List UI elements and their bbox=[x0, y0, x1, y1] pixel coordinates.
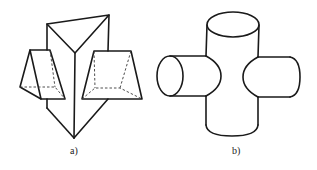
figure-a-label: a) bbox=[70, 146, 78, 156]
figure-a-prism bbox=[47, 15, 109, 138]
diagram-canvas: a) b) bbox=[0, 0, 317, 170]
figure-b-left-cylinder bbox=[157, 56, 221, 96]
figure-a-right-wedge bbox=[82, 51, 142, 99]
figure-b-main-cylinder bbox=[206, 12, 259, 136]
figure-b-right-cylinder bbox=[243, 57, 300, 97]
figure-a-left-wedge bbox=[20, 50, 65, 99]
figure-b-label: b) bbox=[232, 146, 240, 156]
